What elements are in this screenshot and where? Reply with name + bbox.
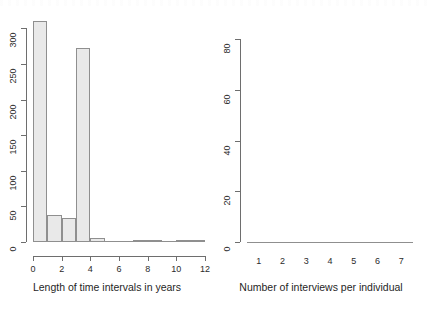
y-axis-tick-label-left: 300 <box>9 33 18 48</box>
histogram-bar <box>47 215 61 242</box>
y-axis-tick-label-right: 80 <box>223 44 232 54</box>
x-axis-category-label-right: 1 <box>256 257 261 266</box>
x-axis-tick-label-left: 10 <box>171 265 181 274</box>
x-axis-tick-left <box>33 256 34 261</box>
y-axis-tick-right <box>235 90 240 91</box>
y-axis-tick-label-left: 50 <box>9 211 18 221</box>
x-axis-tick-left <box>62 256 63 261</box>
y-axis-tick-right <box>235 141 240 142</box>
histogram-panel-left: 050100150200250300024681012 Length of ti… <box>0 0 214 315</box>
y-axis-tick-left <box>21 242 26 243</box>
histogram-bar <box>33 21 47 242</box>
y-axis-tick-label-right: 0 <box>223 247 232 252</box>
x-axis-tick-left <box>90 256 91 261</box>
plot-area-left <box>33 14 205 242</box>
y-axis-tick-left <box>21 135 26 136</box>
x-axis-tick-label-left: 2 <box>59 265 64 274</box>
x-axis-title-right: Number of interviews per individual <box>214 281 428 293</box>
x-axis-tick-left <box>176 256 177 261</box>
y-axis-tick-right <box>235 242 240 243</box>
histogram-baseline <box>33 241 205 242</box>
y-axis-tick-label-left: 150 <box>9 140 18 155</box>
x-axis-tick-label-left: 6 <box>116 265 121 274</box>
x-axis-category-label-right: 7 <box>399 257 404 266</box>
y-axis-tick-label-right: 60 <box>223 95 232 105</box>
y-axis-line-right <box>240 39 241 242</box>
x-axis-category-label-right: 6 <box>375 257 380 266</box>
x-axis-tick-label-left: 12 <box>200 265 210 274</box>
y-axis-tick-left <box>21 100 26 101</box>
barplot-panel-right: 0204060801234567 Number of interviews pe… <box>214 0 428 315</box>
bar-series-left <box>33 14 205 242</box>
y-axis-tick-right <box>235 39 240 40</box>
y-axis-tick-label-left: 250 <box>9 68 18 83</box>
histogram-bar <box>76 48 90 243</box>
barplot-baseline <box>247 242 413 243</box>
y-axis-tick-left <box>21 171 26 172</box>
y-axis-tick-label-right: 40 <box>223 145 232 155</box>
x-axis-tick-label-left: 8 <box>145 265 150 274</box>
x-axis-tick-left <box>119 256 120 261</box>
y-axis-tick-label-left: 200 <box>9 104 18 119</box>
histogram-bar <box>62 218 76 242</box>
x-axis-category-label-right: 3 <box>304 257 309 266</box>
y-axis-tick-right <box>235 191 240 192</box>
x-axis-tick-label-left: 0 <box>30 265 35 274</box>
y-axis-tick-left <box>21 206 26 207</box>
figure-panel: 050100150200250300024681012 Length of ti… <box>0 0 428 315</box>
y-axis-line-left <box>26 28 27 242</box>
x-axis-tick-left <box>205 256 206 261</box>
y-axis-tick-label-right: 20 <box>223 196 232 206</box>
x-axis-category-label-right: 2 <box>280 257 285 266</box>
y-axis-tick-label-left: 100 <box>9 175 18 190</box>
y-axis-tick-left <box>21 28 26 29</box>
x-axis-tick-label-left: 4 <box>88 265 93 274</box>
x-axis-tick-left <box>148 256 149 261</box>
x-axis-category-label-right: 5 <box>351 257 356 266</box>
y-axis-tick-left <box>21 64 26 65</box>
x-axis-category-label-right: 4 <box>327 257 332 266</box>
x-axis-title-left: Length of time intervals in years <box>0 281 214 293</box>
y-axis-tick-label-left: 0 <box>9 247 18 252</box>
